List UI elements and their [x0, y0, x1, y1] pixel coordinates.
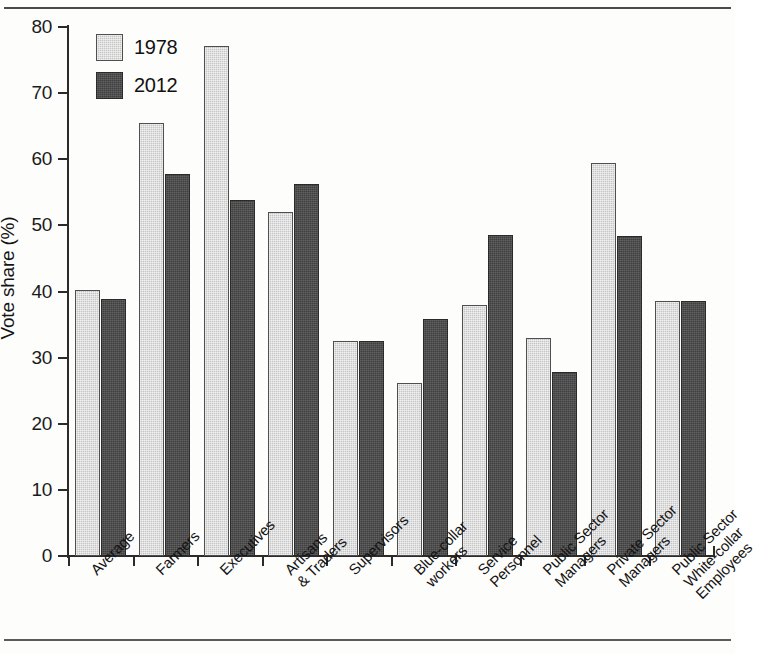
page-rule-top: [4, 7, 731, 9]
y-tick-60: [58, 158, 67, 160]
bar-2012-average: [101, 299, 126, 556]
plot-area: [68, 27, 713, 556]
y-tick-label-60: 60: [0, 149, 52, 168]
bar-2012-public-sector-managers: [552, 372, 577, 556]
bar-1978-supervisors: [333, 341, 358, 556]
bar-2012-blue-collar-workers: [423, 319, 448, 556]
bar-1978-artisans-traders: [268, 212, 293, 556]
bar-1978-executives: [204, 46, 229, 556]
bar-1978-public-sector-managers: [526, 338, 551, 556]
chart-legend: 1978 2012: [96, 28, 177, 104]
x-tick-5: [391, 556, 393, 566]
y-tick-30: [58, 357, 67, 359]
y-tick-0: [58, 555, 67, 557]
y-tick-label-70: 70: [0, 83, 52, 102]
y-tick-label-0: 0: [0, 546, 52, 565]
y-tick-40: [58, 291, 67, 293]
legend-swatch-2012-icon: [96, 72, 123, 99]
x-tick-0: [68, 556, 70, 566]
y-tick-label-30: 30: [0, 348, 52, 367]
legend-label-2012: 2012: [134, 74, 177, 97]
bar-1978-average: [75, 290, 100, 556]
x-tick-2: [197, 556, 199, 566]
x-tick-1: [133, 556, 135, 566]
y-tick-70: [58, 92, 67, 94]
bar-2012-service-personnel: [488, 235, 513, 556]
bar-2012-artisans-traders: [294, 184, 319, 556]
bar-1978-private-sector-managers: [591, 163, 616, 556]
y-tick-label-10: 10: [0, 480, 52, 499]
legend-label-1978: 1978: [134, 36, 177, 59]
x-tick-3: [262, 556, 264, 566]
bar-1978-farmers: [139, 123, 164, 556]
bar-2012-executives: [230, 200, 255, 556]
bar-2012-private-sector-managers: [617, 236, 642, 556]
legend-swatch-1978-icon: [96, 34, 123, 61]
y-tick-label-40: 40: [0, 282, 52, 301]
y-tick-20: [58, 423, 67, 425]
y-tick-10: [58, 489, 67, 491]
page-rule-bottom: [4, 639, 731, 641]
bar-2012-farmers: [165, 174, 190, 556]
legend-entry-2012: 2012: [96, 66, 177, 104]
y-tick-label-20: 20: [0, 414, 52, 433]
bar-2012-supervisors: [359, 341, 384, 556]
bar-1978-service-personnel: [462, 305, 487, 556]
y-tick-label-80: 80: [0, 17, 52, 36]
y-tick-50: [58, 224, 67, 226]
y-tick-label-50: 50: [0, 215, 52, 234]
y-tick-80: [58, 26, 67, 28]
legend-entry-1978: 1978: [96, 28, 177, 66]
